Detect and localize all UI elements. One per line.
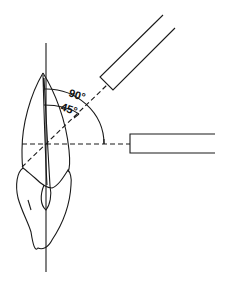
horizontal-cone xyxy=(130,134,215,153)
angled-cone xyxy=(100,15,175,90)
tooth-angle-diagram: 90° 45° xyxy=(0,0,227,285)
crown-notch xyxy=(28,200,31,210)
angled-central-ray xyxy=(22,85,107,167)
angle-90-label: 90° xyxy=(67,86,87,103)
